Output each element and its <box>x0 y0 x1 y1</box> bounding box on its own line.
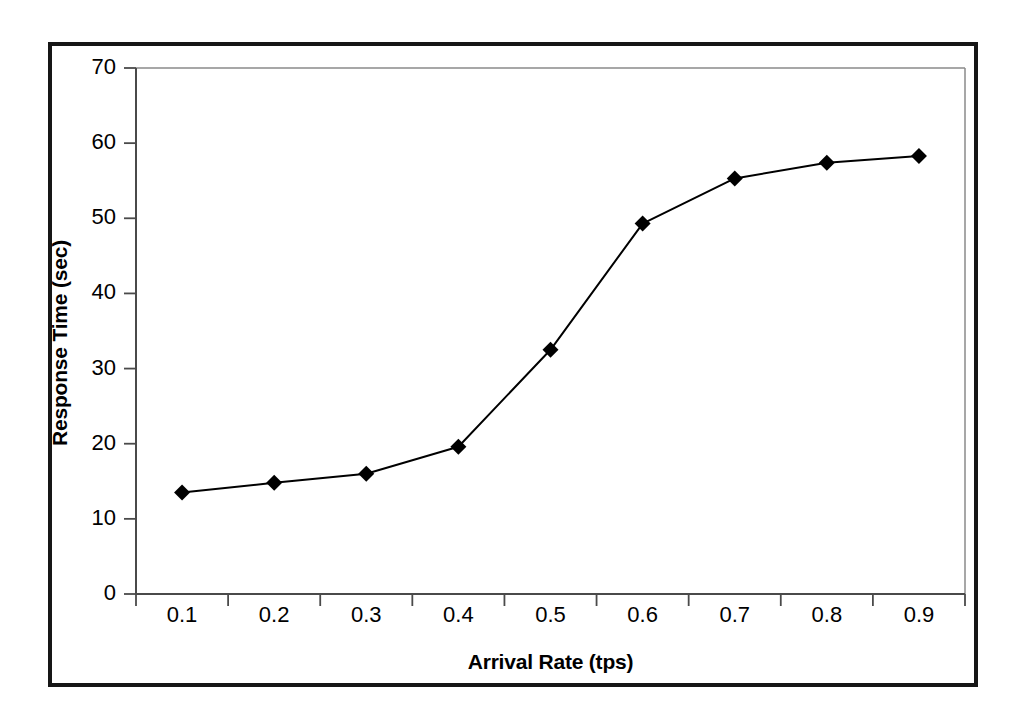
x-axis-tick-label: 0.4 <box>408 604 508 626</box>
x-axis-tick-label: 0.3 <box>316 604 416 626</box>
y-axis-tick-label: 40 <box>72 281 116 303</box>
data-point-marker <box>819 155 835 171</box>
x-axis-title: Arrival Rate (tps) <box>136 650 965 674</box>
x-axis-tick-label: 0.1 <box>132 604 232 626</box>
data-point-marker <box>266 475 282 491</box>
x-axis-tick-label: 0.5 <box>501 604 601 626</box>
y-axis-tick-label: 0 <box>72 582 116 604</box>
data-point-markers <box>174 148 927 501</box>
data-point-marker <box>358 466 374 482</box>
y-axis-tick-label: 30 <box>72 357 116 379</box>
data-point-marker <box>727 170 743 186</box>
y-axis-tick-label: 50 <box>72 206 116 228</box>
y-axis-tick-label: 10 <box>72 507 116 529</box>
x-axis-tick-label: 0.8 <box>777 604 877 626</box>
data-series-line <box>182 156 919 493</box>
y-axis-tick-label: 60 <box>72 131 116 153</box>
y-axis-ticks <box>124 68 136 594</box>
y-axis-title: Response Time (sec) <box>48 223 72 463</box>
y-axis-tick-label: 20 <box>72 432 116 454</box>
x-axis-tick-label: 0.7 <box>685 604 785 626</box>
data-point-marker <box>174 485 190 501</box>
x-axis-tick-label: 0.2 <box>224 604 324 626</box>
data-point-marker <box>635 216 651 232</box>
x-axis-tick-label: 0.6 <box>593 604 693 626</box>
plot-axes <box>136 68 965 594</box>
y-axis-tick-label: 70 <box>72 56 116 78</box>
x-axis-tick-label: 0.9 <box>869 604 969 626</box>
data-point-marker <box>911 148 927 164</box>
